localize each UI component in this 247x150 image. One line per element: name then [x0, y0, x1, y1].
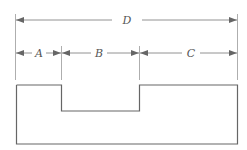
label-a: A [34, 47, 43, 60]
dimension-diagram: D A B C [0, 0, 247, 150]
notched-profile-shape [17, 85, 238, 144]
label-d: D [122, 14, 132, 27]
label-b: B [94, 47, 103, 60]
label-c: C [187, 47, 196, 60]
